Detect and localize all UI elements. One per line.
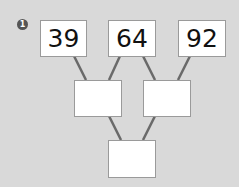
problem-number-badge: 1 — [17, 19, 28, 30]
top-box-2: 64 — [108, 20, 156, 57]
top-box-3: 92 — [178, 20, 226, 57]
bottom-box[interactable] — [108, 140, 156, 178]
middle-box-1[interactable] — [74, 80, 122, 117]
middle-box-2[interactable] — [143, 80, 191, 117]
top-box-1: 39 — [40, 20, 87, 57]
